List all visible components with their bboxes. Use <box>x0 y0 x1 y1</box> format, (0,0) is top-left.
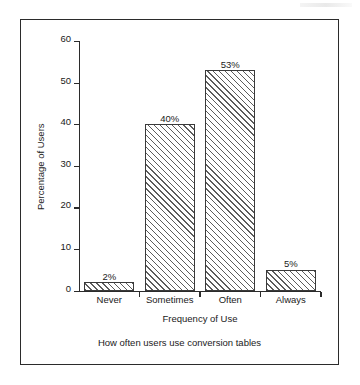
y-axis-title-text: Percentage of Users <box>35 123 45 210</box>
bar-value-label: 5% <box>284 259 298 269</box>
figure-frame: Percentage of Users 0102030405060 2%Neve… <box>20 19 339 365</box>
y-axis-line <box>79 41 80 292</box>
y-tick-mark <box>74 166 79 167</box>
bar[interactable]: 40%Sometimes <box>145 124 195 290</box>
plot-area: 0102030405060 2%Never40%Sometimes53%Ofte… <box>79 41 321 292</box>
y-tick-label: 20 <box>60 200 71 210</box>
y-tick-mark <box>74 124 79 125</box>
bar-value-label: 40% <box>160 114 179 124</box>
bar-value-label: 2% <box>102 272 116 282</box>
y-tick-label: 30 <box>60 159 71 169</box>
x-axis-title: Frequency of Use <box>79 314 321 324</box>
y-tick-label: 10 <box>60 242 71 252</box>
y-tick-label: 40 <box>60 117 71 127</box>
x-category-label: Often <box>219 295 242 305</box>
x-category-label: Always <box>276 295 306 305</box>
y-tick-label: 60 <box>60 34 71 44</box>
y-tick-mark <box>74 83 79 84</box>
y-tick-label: 50 <box>60 76 71 86</box>
bar[interactable]: 5%Always <box>266 270 316 291</box>
y-tick-mark <box>74 291 79 292</box>
bar[interactable]: 53%Often <box>205 70 255 290</box>
y-tick-mark <box>74 207 79 208</box>
x-tick-mark <box>320 292 321 297</box>
y-axis-title: Percentage of Users <box>34 41 46 292</box>
scan-artifact <box>300 3 352 7</box>
bar[interactable]: 2%Never <box>84 282 134 290</box>
x-category-label: Never <box>97 295 122 305</box>
bar-value-label: 53% <box>221 60 240 70</box>
y-tick-mark <box>74 249 79 250</box>
x-tick-mark <box>199 292 200 297</box>
x-category-label: Sometimes <box>146 295 194 305</box>
x-tick-mark <box>139 292 140 297</box>
y-tick-label: 0 <box>66 284 71 294</box>
x-tick-mark <box>260 292 261 297</box>
y-tick-mark <box>74 41 79 42</box>
figure-caption: How often users use conversion tables <box>21 338 338 348</box>
